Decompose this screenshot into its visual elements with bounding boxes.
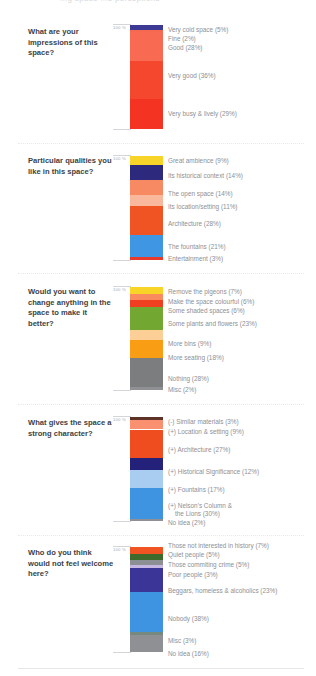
legend-item: Its location/setting (11%) (168, 203, 238, 211)
legend-item: The fountains (21%) (168, 243, 226, 251)
bar-segment[interactable] (130, 180, 163, 195)
legend-item: Quiet people (5%) (168, 551, 220, 559)
bar-segment[interactable] (130, 488, 163, 519)
bar-segment[interactable] (130, 568, 163, 592)
question-text-character: What gives the space a strong character? (28, 418, 114, 439)
stacked-bar[interactable] (130, 25, 163, 129)
section-divider (18, 535, 304, 536)
bar-segment[interactable] (130, 165, 163, 180)
axis-tick-bottom (113, 390, 131, 391)
section-divider (18, 404, 304, 405)
legend-item: Great ambience (9%) (168, 157, 229, 165)
bar-segment[interactable] (130, 307, 163, 331)
legend-item: Its historical context (14%) (168, 172, 243, 180)
bar-segment[interactable] (130, 99, 163, 129)
legend-item-continuation: the Lions (30%) (168, 510, 220, 518)
page-bottom-divider (18, 668, 304, 669)
survey-results-page: ...g space ...e perceptions What are you… (0, 0, 316, 676)
question-text-welcome: Who do you think would not feel welcome … (28, 548, 114, 580)
legend-item: (+) Location & setting (9%) (168, 428, 244, 436)
legend-item: Make the space colourful (6%) (168, 298, 254, 306)
stacked-bar[interactable] (130, 156, 163, 260)
bar-segment[interactable] (130, 32, 163, 61)
legend-item: Poor people (3%) (168, 571, 218, 579)
bar-segment[interactable] (130, 287, 163, 294)
bar-segment[interactable] (130, 235, 163, 257)
legend-item: Misc (2%) (168, 386, 196, 394)
axis-label-100: 100 % (113, 547, 126, 552)
legend-item: Very good (36%) (168, 72, 216, 80)
legend-item: (+) Fountains (17%) (168, 486, 225, 494)
axis-tick-bottom (113, 129, 131, 130)
bar-segment[interactable] (130, 458, 163, 471)
legend-item: Very cold space (5%) (168, 26, 228, 34)
legend-item: (-) Similar materials (3%) (168, 418, 239, 426)
legend-item: Nobody (38%) (168, 615, 209, 623)
legend-item: Very busy & lively (29%) (168, 110, 237, 118)
legend-item: Those commiting crime (5%) (168, 561, 249, 569)
bar-segment[interactable] (130, 387, 163, 390)
stacked-bar[interactable] (130, 417, 163, 521)
bar-segment[interactable] (130, 195, 163, 206)
axis-label-100: 100 % (113, 287, 126, 292)
bar-segment[interactable] (130, 635, 163, 652)
legend-item: More seating (18%) (168, 354, 224, 362)
legend-item: (+) Architecture (27%) (168, 446, 230, 454)
legend-item: Nothing (28%) (168, 375, 209, 383)
legend-item: No idea (2%) (168, 519, 205, 527)
legend-item: Beggars, homeless & alcoholics (23%) (168, 587, 277, 595)
section-divider (18, 143, 304, 144)
axis-tick-bottom (113, 521, 131, 522)
section-divider (18, 273, 304, 274)
bar-segment[interactable] (130, 340, 163, 359)
legend-item: (+) Nelson's Column & (168, 502, 232, 510)
axis-label-100: 100 % (113, 156, 126, 161)
clipped-header-label: ...g space ...e perceptions (60, 0, 160, 3)
bar-segment[interactable] (130, 61, 163, 98)
bar-segment[interactable] (130, 206, 163, 235)
legend-item: More bins (9%) (168, 340, 211, 348)
legend-item: Good (28%) (168, 44, 202, 52)
bar-segment[interactable] (130, 470, 163, 488)
bar-segment[interactable] (130, 592, 163, 632)
bar-segment[interactable] (130, 156, 163, 165)
bar-segment[interactable] (130, 430, 163, 458)
bar-segment[interactable] (130, 547, 163, 554)
bar-segment[interactable] (130, 358, 163, 387)
clipped-header-text: ...g space ...e perceptions (0, 0, 316, 10)
legend-item: (+) Historical Significance (12%) (168, 468, 259, 476)
question-text-change: Would you want to change anything in the… (28, 287, 114, 329)
axis-tick-bottom (113, 652, 131, 653)
legend-item: Some plants and flowers (23%) (168, 320, 257, 328)
bar-segment[interactable] (130, 519, 163, 521)
bar-segment[interactable] (130, 420, 163, 429)
legend-item: Some shaded spaces (6%) (168, 307, 245, 315)
stacked-bar[interactable] (130, 547, 163, 652)
legend-item: Remove the pigeons (7%) (168, 288, 242, 296)
question-text-qualities: Particular qualities you like in this sp… (28, 156, 114, 177)
axis-label-100: 100 % (113, 25, 126, 30)
stacked-bar[interactable] (130, 287, 163, 390)
question-text-impressions: What are your impressions of this space? (28, 27, 114, 59)
bar-segment[interactable] (130, 330, 163, 339)
legend-item: Entertainment (3%) (168, 255, 223, 263)
axis-tick-bottom (113, 260, 131, 261)
legend-item: Architecture (28%) (168, 220, 221, 228)
bar-segment[interactable] (130, 257, 163, 260)
legend-item: The open space (14%) (168, 190, 233, 198)
legend-item: No idea (16%) (168, 650, 209, 658)
legend-item: Fine (2%) (168, 35, 196, 43)
legend-item: Those not interested in history (7%) (168, 542, 269, 550)
legend-item: Misc (3%) (168, 637, 196, 645)
axis-label-100: 100 % (113, 417, 126, 422)
